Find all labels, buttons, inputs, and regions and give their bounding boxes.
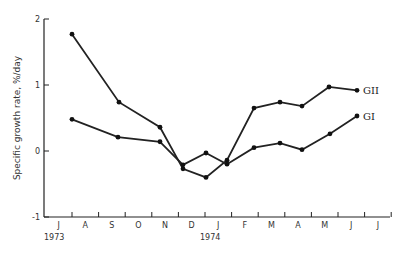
data-point (355, 114, 360, 119)
data-point (278, 141, 283, 146)
data-point (181, 162, 186, 167)
x-tick-label: A (295, 221, 301, 230)
x-tick-label: J (57, 221, 60, 230)
data-point (278, 100, 283, 105)
data-point (70, 117, 75, 122)
data-point (116, 135, 121, 140)
x-tick-label: J (216, 221, 219, 230)
x-tick-label: F (243, 221, 248, 230)
data-point (355, 88, 360, 93)
y-tick-label: 0 (35, 147, 40, 156)
data-point (204, 151, 209, 156)
data-point (252, 106, 257, 111)
x-tick-label: M (268, 221, 275, 230)
x-tick-label: D (189, 221, 195, 230)
y-tick-label: -1 (32, 213, 40, 222)
series-label-gii: GII (363, 85, 379, 96)
year-label-1974: 1974 (200, 233, 220, 242)
growth-rate-chart: 210-1Specific growth rate, %/dayJASONDJF… (0, 0, 407, 253)
y-tick-label: 1 (35, 81, 40, 90)
data-point (204, 175, 209, 180)
data-point (225, 162, 230, 167)
x-tick-label: J (349, 221, 352, 230)
x-tick-label: J (376, 221, 379, 230)
data-point (328, 131, 333, 136)
y-tick-label: 2 (35, 15, 40, 24)
data-point (117, 100, 122, 105)
x-tick-label: A (83, 221, 89, 230)
data-point (158, 139, 163, 144)
data-point (300, 104, 305, 109)
data-point (327, 85, 332, 90)
x-tick-label: O (135, 221, 141, 230)
series-line-gi (72, 116, 357, 165)
data-point (70, 32, 75, 37)
data-point (300, 147, 305, 152)
x-tick-label: M (321, 221, 328, 230)
data-point (252, 145, 257, 150)
year-label-1973: 1973 (44, 233, 64, 242)
series-label-gi: GI (363, 111, 375, 122)
series-line-gii (72, 34, 357, 177)
data-point (158, 125, 163, 130)
x-tick-label: N (162, 221, 168, 230)
y-axis-label: Specific growth rate, %/day (12, 55, 22, 180)
x-tick-label: S (109, 221, 114, 230)
